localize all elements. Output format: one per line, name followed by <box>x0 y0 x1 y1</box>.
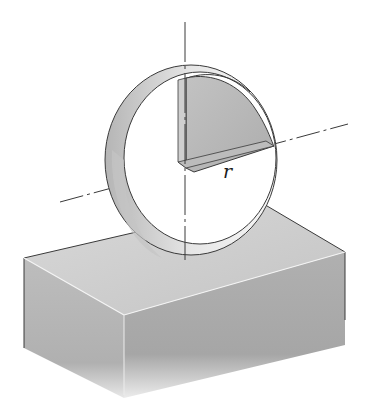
ring-on-block-diagram: r <box>0 0 367 398</box>
